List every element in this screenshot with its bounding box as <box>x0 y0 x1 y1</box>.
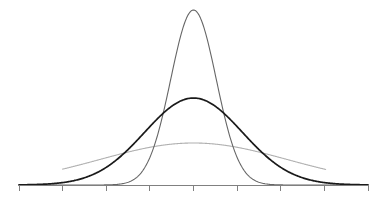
chart-background <box>0 0 385 201</box>
chart-figure <box>0 0 385 201</box>
distribution-chart-canvas <box>0 0 385 201</box>
